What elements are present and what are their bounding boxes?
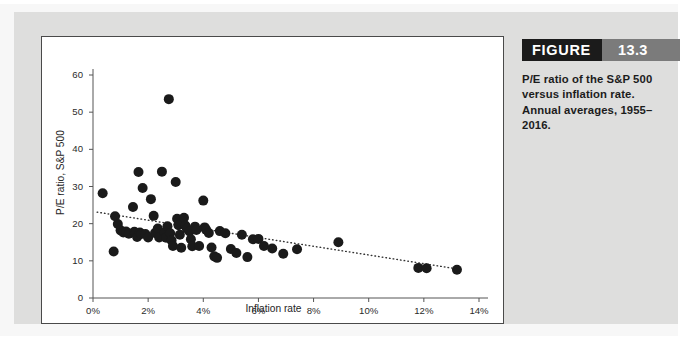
figure-caption: P/E ratio of the S&P 500 versus inflatio… [522,72,672,134]
figure-panel: P/E ratio, S&P 500 Inflation rate 010203… [14,12,678,324]
chart-area: P/E ratio, S&P 500 Inflation rate 010203… [42,37,505,325]
figure-header: FIGURE 13.3 [522,39,680,61]
figure-label: FIGURE [522,39,602,61]
figure-number: 13.3 [602,39,680,61]
scatter-plot [42,37,505,325]
plot-box: P/E ratio, S&P 500 Inflation rate 010203… [41,36,504,324]
